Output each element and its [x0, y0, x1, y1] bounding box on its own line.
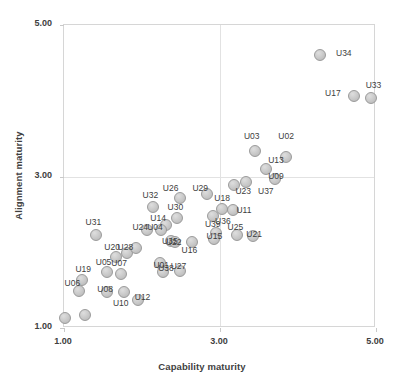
data-point-label: U30 [164, 202, 186, 212]
x-tick-label: 1.00 [40, 336, 86, 346]
tick-mark-x [220, 328, 221, 332]
data-point-label: U10 [110, 298, 132, 308]
data-point-label: U23 [232, 186, 254, 196]
data-point-label: U06 [61, 278, 83, 288]
data-point[interactable] [90, 229, 102, 241]
data-point[interactable] [147, 201, 159, 213]
tick-mark-y [60, 25, 64, 26]
data-point-label: U04 [144, 222, 166, 232]
data-point[interactable] [314, 49, 326, 61]
data-point-label: U16 [178, 245, 200, 255]
data-point-label: U13 [265, 155, 287, 165]
data-point-label: U37 [255, 186, 277, 196]
data-point-label: U08 [94, 284, 116, 294]
data-point-label: U39 [202, 219, 224, 229]
x-tick-label: 3.00 [196, 336, 242, 346]
y-tick-label: 5.00 [12, 18, 52, 28]
data-point[interactable] [79, 309, 91, 321]
tick-mark-y [60, 177, 64, 178]
data-point-label: U33 [362, 80, 384, 90]
data-point[interactable] [115, 268, 127, 280]
data-point-label: U26 [160, 183, 182, 193]
data-point-label: U31 [82, 217, 104, 227]
data-point-label: U21 [243, 229, 265, 239]
y-tick-label: 3.00 [12, 170, 52, 180]
data-point-label: U34 [333, 48, 355, 58]
tick-mark-x [64, 328, 65, 332]
data-point-label: U32 [139, 190, 161, 200]
data-point[interactable] [365, 92, 377, 104]
tick-mark-x [376, 328, 377, 332]
data-point-label: U15 [203, 231, 225, 241]
y-tick-label: 1.00 [12, 321, 52, 331]
x-axis-title: Capability maturity [0, 361, 404, 372]
data-point-label: U03 [241, 131, 263, 141]
data-point[interactable] [348, 90, 360, 102]
data-point-label: U02 [275, 131, 297, 141]
data-point-label: U18 [211, 193, 233, 203]
x-tick-label: 5.00 [352, 336, 398, 346]
gridline-vertical [220, 25, 221, 326]
data-point-label: U12 [132, 292, 154, 302]
data-point-label: U27 [167, 261, 189, 271]
data-point-label: U07 [108, 258, 130, 268]
data-point[interactable] [118, 286, 130, 298]
data-point-label: U09 [265, 171, 287, 181]
data-point-label: U17 [322, 88, 344, 98]
data-point-label: U28 [114, 242, 136, 252]
data-point-label: U29 [189, 183, 211, 193]
data-point[interactable] [171, 212, 183, 224]
data-point-label: U19 [72, 264, 94, 274]
data-point[interactable] [59, 312, 71, 324]
scatter-chart: Alignment maturity Capability maturity 1… [0, 0, 404, 385]
data-point-label: U11 [233, 205, 255, 215]
gridline-horizontal [64, 177, 374, 178]
plot-area [63, 24, 375, 327]
